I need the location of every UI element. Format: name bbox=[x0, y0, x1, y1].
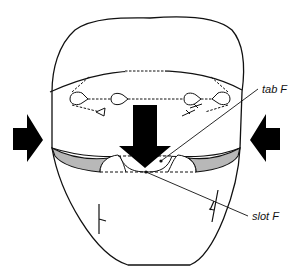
tab-f-label: tab F bbox=[262, 83, 287, 95]
right-push-arrow-icon bbox=[250, 114, 280, 162]
slot-point bbox=[144, 170, 147, 173]
left-push-arrow-icon bbox=[13, 114, 43, 162]
assembly-diagram bbox=[0, 0, 301, 280]
slot-f-label: slot F bbox=[252, 210, 279, 222]
tab-point bbox=[159, 159, 162, 162]
